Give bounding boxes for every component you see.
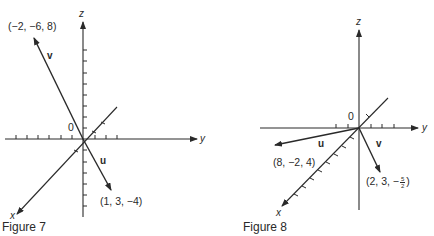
fig8-y-ticks (336, 124, 394, 128)
fig8-vector-v-fraction: 52 (400, 176, 405, 189)
fig8-origin-label: 0 (348, 111, 354, 122)
fig7-origin-label: 0 (68, 122, 74, 133)
fig7-vector-u-point: (1, 3, −4) (100, 196, 142, 207)
fig8-y-axis-label: y (422, 123, 427, 133)
fig7-vector-u-label: u (100, 156, 106, 166)
fig8-vector-v-point: (2, 3, −52) (366, 176, 410, 189)
fig7-z-axis-label: z (79, 9, 84, 19)
fig7-vector-u (83, 139, 111, 190)
fig7-caption: Figure 7 (2, 220, 46, 234)
fig8-vector-v-point-suffix: ) (406, 175, 410, 187)
fig8-vector-v-label: v (376, 139, 382, 149)
fig8-vector-v-point-prefix: (2, 3, − (366, 175, 399, 187)
fig8-vector-u-label: u (318, 139, 324, 149)
fig8-vector-v (359, 128, 380, 172)
fraction-numerator: 5 (400, 176, 405, 183)
fig8-caption: Figure 8 (243, 220, 287, 234)
fig8-vector-u-point: (8, −2, 4) (273, 157, 315, 168)
diagram-canvas (0, 0, 434, 236)
figure-7 (5, 22, 197, 217)
fig7-vector-v (34, 38, 83, 139)
fig7-y-ticks (16, 135, 117, 139)
fig8-vector-u (275, 128, 359, 145)
fig8-x-axis-label: x (276, 208, 281, 218)
fig8-z-axis-label: z (356, 17, 361, 27)
fig7-vector-v-point: (−2, −6, 8) (8, 21, 56, 32)
fig7-z-ticks (83, 50, 87, 206)
fig8-x-axis (282, 98, 388, 206)
fig7-vector-v-label: v (47, 51, 53, 61)
fig7-y-axis-label: y (200, 134, 205, 144)
fraction-denominator: 2 (400, 183, 405, 189)
